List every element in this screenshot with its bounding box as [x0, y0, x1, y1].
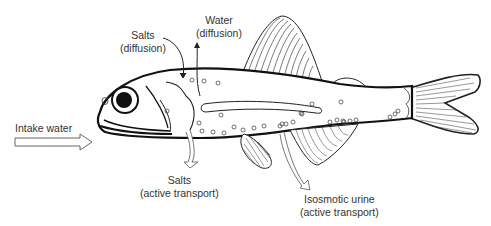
- urine-line2: (active transport): [300, 206, 379, 219]
- water-diffusion-line1: Water: [196, 14, 242, 27]
- intake-water-arrow: [15, 134, 92, 150]
- label-salts-diffusion: Salts (diffusion): [120, 29, 166, 55]
- tail-fin: [410, 74, 480, 134]
- salts-diffusion-line2: (diffusion): [120, 42, 166, 55]
- salts-diffusion-line1: Salts: [120, 29, 166, 42]
- intake-water-text: Intake water: [15, 122, 72, 135]
- label-water-diffusion: Water (diffusion): [196, 14, 242, 40]
- salts-active-line2: (active transport): [140, 187, 219, 200]
- label-intake-water: Intake water: [15, 122, 72, 135]
- label-salts-active: Salts (active transport): [140, 174, 219, 200]
- salts-active-line1: Salts: [140, 174, 219, 187]
- water-diffusion-line2: (diffusion): [196, 27, 242, 40]
- pelvic-fin: [241, 134, 271, 168]
- urine-line1: Isosmotic urine: [300, 193, 379, 206]
- label-urine: Isosmotic urine (active transport): [300, 193, 379, 219]
- anal-fin: [290, 124, 358, 165]
- fish-osmoregulation-diagram: [0, 0, 491, 226]
